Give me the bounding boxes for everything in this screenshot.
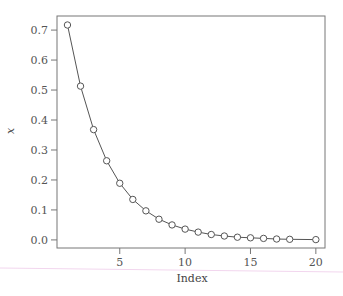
y-tick-label: 0.0 — [31, 234, 49, 247]
data-point-marker — [143, 208, 149, 214]
data-point-marker — [247, 235, 253, 241]
y-tick-label: 0.1 — [31, 204, 49, 217]
data-point-marker — [77, 83, 83, 89]
scan-artifact-line — [0, 268, 343, 272]
data-point-marker — [313, 236, 319, 242]
plot-frame — [57, 16, 325, 248]
data-point-marker — [169, 222, 175, 228]
data-point-marker — [260, 235, 266, 241]
data-markers — [64, 22, 319, 243]
data-point-marker — [130, 196, 136, 202]
y-tick-label: 0.2 — [31, 174, 49, 187]
data-point-marker — [208, 231, 214, 237]
data-point-marker — [182, 226, 188, 232]
y-tick-label: 0.7 — [31, 24, 49, 37]
x-axis-label: Index — [176, 272, 208, 285]
data-point-marker — [287, 236, 293, 242]
chart: 0.00.10.20.30.40.50.60.7 5101520 Index x — [0, 0, 343, 296]
x-tick-label: 10 — [178, 256, 192, 269]
y-tick-label: 0.3 — [31, 144, 49, 157]
y-tick-label: 0.5 — [31, 84, 49, 97]
x-tick-label: 15 — [243, 256, 257, 269]
data-point-marker — [90, 126, 96, 132]
y-tick-label: 0.6 — [31, 54, 49, 67]
data-point-marker — [103, 158, 109, 164]
data-point-marker — [64, 22, 70, 28]
x-tick-label: 20 — [309, 256, 323, 269]
x-tick-label: 5 — [116, 256, 123, 269]
data-point-marker — [195, 229, 201, 235]
y-axis-label: x — [4, 127, 17, 134]
y-tick-label: 0.4 — [31, 114, 49, 127]
data-line — [68, 25, 316, 240]
data-point-marker — [273, 236, 279, 242]
y-axis: 0.00.10.20.30.40.50.60.7 — [31, 24, 58, 247]
data-point-marker — [156, 216, 162, 222]
data-point-marker — [234, 234, 240, 240]
data-point-marker — [221, 233, 227, 239]
x-axis: 5101520 — [116, 248, 323, 269]
data-point-marker — [117, 180, 123, 186]
